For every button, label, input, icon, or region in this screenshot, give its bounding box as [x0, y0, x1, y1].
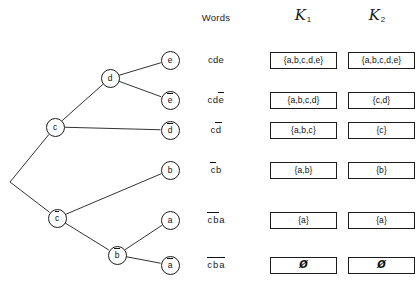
tree-edge-cbar-to-bbar: [65, 223, 109, 250]
tree-node-label-cbar: c: [49, 210, 66, 227]
tree-node-bbar[interactable]: b: [108, 246, 127, 265]
tree-node-label-e: e: [162, 52, 179, 69]
k1-set-box-5: Ø: [270, 257, 337, 274]
word-2: cd: [190, 125, 242, 135]
k2-set-box-4: {a}: [348, 212, 415, 229]
k1-set-box-3: {a,b}: [270, 162, 337, 179]
tree-node-a[interactable]: a: [161, 211, 180, 230]
k2-set-box-3: {b}: [348, 162, 415, 179]
k1-subscript: 1: [306, 15, 311, 24]
tree-node-label-bbar: b: [109, 247, 126, 264]
column-header-k1: K1: [278, 8, 328, 24]
k2-set-box-2: {c}: [348, 122, 415, 139]
tree-edges: [0, 0, 200, 287]
tree-edge-c-to-d: [62, 84, 103, 120]
k1-set-box-4: {a}: [270, 212, 337, 229]
word-5: cba: [190, 260, 242, 270]
tree-edge-cbar-to-b: [66, 174, 162, 215]
k1-symbol: K: [295, 6, 306, 24]
tree-node-dbar[interactable]: d: [161, 121, 180, 140]
tree-node-label-c: c: [47, 119, 64, 136]
tree-edge-root-to-c: [10, 134, 49, 182]
word-0: cde: [190, 55, 242, 65]
k2-symbol: K: [369, 6, 380, 24]
tree-node-cbar[interactable]: c: [48, 209, 67, 228]
tree-edge-d-to-e: [119, 63, 161, 76]
tree-node-label-a: a: [162, 212, 179, 229]
tree-node-abar[interactable]: a: [161, 256, 180, 275]
tree-node-label-d: d: [102, 70, 119, 87]
tree-node-label-b: b: [162, 162, 179, 179]
tree-edge-c-to-dbar: [64, 127, 160, 130]
tree-node-d[interactable]: d: [101, 69, 120, 88]
k1-set-box-0: {a,b,c,d,e}: [270, 52, 337, 69]
tree-node-ebar[interactable]: e: [161, 91, 180, 110]
decision-tree-figure: Words K1 K2 ccddbbeeaacde{a,b,c,d,e}{a,b…: [0, 0, 417, 287]
word-3: cb: [190, 165, 242, 175]
word-1: cde: [190, 95, 242, 105]
tree-edge-bbar-to-abar: [126, 257, 160, 263]
tree-edge-d-to-ebar: [119, 81, 161, 96]
k2-set-box-0: {a,b,c,d,e}: [348, 52, 415, 69]
tree-edge-bbar-to-a: [125, 225, 162, 250]
tree-node-e[interactable]: e: [161, 51, 180, 70]
tree-node-label-ebar: e: [162, 92, 179, 109]
k1-set-box-1: {a,b,c,d}: [270, 92, 337, 109]
tree-edge-root-to-cbar: [10, 182, 49, 212]
k2-set-box-5: Ø: [348, 257, 415, 274]
tree-node-label-abar: a: [162, 257, 179, 274]
k2-subscript: 2: [380, 15, 385, 24]
word-4: cba: [190, 215, 242, 225]
k2-set-box-1: {c,d}: [348, 92, 415, 109]
column-header-k2: K2: [352, 8, 402, 24]
tree-node-b[interactable]: b: [161, 161, 180, 180]
tree-node-c[interactable]: c: [46, 118, 65, 137]
k1-set-box-2: {a,b,c}: [270, 122, 337, 139]
tree-node-label-dbar: d: [162, 122, 179, 139]
